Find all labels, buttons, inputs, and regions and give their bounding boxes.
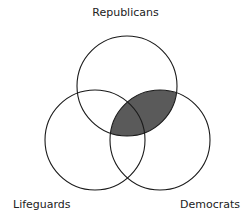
venn-diagram [0,0,251,224]
label-lifeguards: Lifeguards [13,198,71,211]
label-democrats: Democrats [180,198,240,211]
circle-lifeguards [45,90,145,190]
